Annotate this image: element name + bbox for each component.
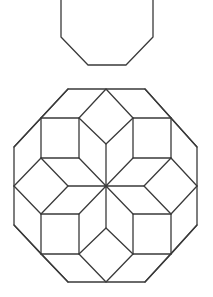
tile-edge bbox=[79, 254, 133, 282]
tile-edge bbox=[171, 158, 197, 186]
tile-edge bbox=[41, 89, 68, 118]
square-tile bbox=[133, 118, 171, 158]
tile-edge bbox=[171, 186, 197, 214]
tile-edge bbox=[171, 118, 197, 147]
tiling-diagram bbox=[0, 0, 213, 297]
tile-edge bbox=[145, 254, 171, 282]
tile-edge bbox=[41, 158, 68, 214]
tile-edge bbox=[79, 228, 133, 254]
star-center-point bbox=[104, 184, 107, 187]
tile-edge bbox=[79, 118, 133, 144]
tile-edge bbox=[14, 186, 41, 214]
square-tile bbox=[133, 214, 171, 254]
square-tile bbox=[41, 118, 79, 158]
small-octagon-outline bbox=[61, 0, 153, 65]
square-tile bbox=[41, 214, 79, 254]
tile-edge bbox=[41, 254, 68, 282]
tile-edge bbox=[144, 158, 171, 214]
tile-edge bbox=[14, 158, 41, 186]
figure-canvas bbox=[0, 0, 213, 297]
tile-edge bbox=[171, 225, 197, 254]
tile-edge bbox=[79, 89, 133, 118]
tile-edge bbox=[14, 118, 41, 147]
tile-edge bbox=[14, 225, 41, 254]
tile-edge bbox=[145, 89, 171, 118]
